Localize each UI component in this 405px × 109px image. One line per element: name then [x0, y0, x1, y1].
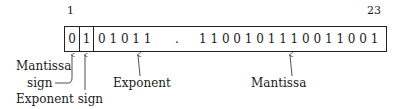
exponent-label: Exponent	[113, 76, 171, 90]
mantissa-sign-label-line2: sign	[27, 76, 52, 90]
mantissa-label: Mantissa	[251, 76, 306, 90]
mantissa-arrow	[290, 55, 292, 76]
mantissa-sign-label-line1: Mantissa	[16, 59, 71, 73]
exponent-sign-label: Exponent sign	[16, 92, 103, 106]
exponent-arrow	[138, 55, 140, 76]
